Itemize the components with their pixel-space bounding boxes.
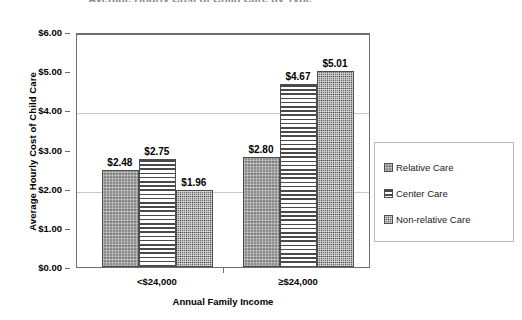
y-axis-tick-label: $6.00 <box>38 27 62 38</box>
bar <box>102 170 139 267</box>
legend-label-center-care: Center Care <box>396 188 448 199</box>
y-axis-tick-mark <box>65 229 70 230</box>
y-axis-tick-mark <box>65 111 70 112</box>
legend-item-relative-care: Relative Care <box>384 154 513 180</box>
y-axis-tick-label: $5.00 <box>38 66 62 77</box>
y-axis-tick-label: $3.00 <box>38 145 62 156</box>
y-axis-tick-mark <box>65 72 70 73</box>
bar-value-label: $5.01 <box>313 58 357 69</box>
legend-item-non-relative-care: Non-relative Care <box>384 206 513 232</box>
bar <box>243 157 280 267</box>
legend-swatch-icon-relative-care <box>384 163 393 172</box>
bar-value-label: $2.80 <box>239 144 283 155</box>
bar-value-label: $2.75 <box>135 146 179 157</box>
y-axis-title: Average Hourly Cost of Child Care <box>27 37 38 267</box>
y-axis-tick-label: $1.00 <box>38 223 62 234</box>
legend-label-non-relative-care: Non-relative Care <box>396 214 470 225</box>
bar-value-label: $4.67 <box>276 71 320 82</box>
x-axis-title: Annual Family Income <box>76 296 370 307</box>
bar <box>280 84 317 267</box>
y-axis-tick-mark <box>65 33 70 34</box>
y-axis-tick-mark <box>65 190 70 191</box>
bar-value-label: $2.48 <box>98 157 142 168</box>
bar-value-label: $1.96 <box>172 177 216 188</box>
legend-swatch-icon-center-care <box>384 189 393 198</box>
bar <box>317 71 354 267</box>
category-label: <$24,000 <box>107 276 207 287</box>
y-axis-tick-mark <box>65 151 70 152</box>
legend-swatch-icon-non-relative-care <box>384 215 393 224</box>
y-axis-tick-mark <box>65 268 70 269</box>
y-axis-tick-label: $0.00 <box>38 262 62 273</box>
category-label: ≥$24,000 <box>248 276 348 287</box>
category-separator-tick <box>223 268 224 273</box>
chart-title-fragment: Average Hourly Cost of Child Care by Typ… <box>0 0 400 2</box>
bar-chart-figure: Average Hourly Cost of Child Care by Typ… <box>0 0 522 320</box>
y-axis-tick-label: $4.00 <box>38 105 62 116</box>
legend-label-relative-care: Relative Care <box>396 162 454 173</box>
legend-box: Relative Care Center Care Non-relative C… <box>374 142 514 242</box>
bar <box>176 190 213 267</box>
legend-item-center-care: Center Care <box>384 180 513 206</box>
bar <box>139 159 176 267</box>
y-axis-tick-label: $2.00 <box>38 184 62 195</box>
